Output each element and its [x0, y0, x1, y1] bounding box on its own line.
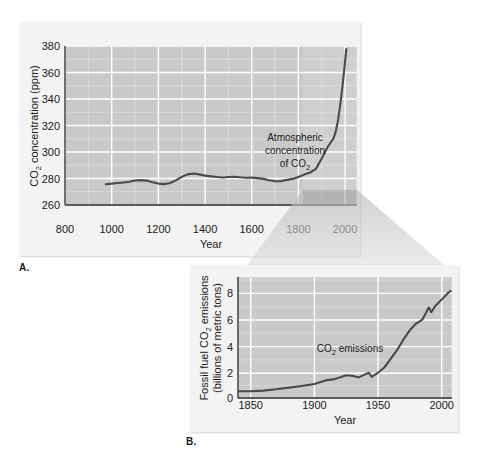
y-ticks-b: 8 6 4 2 0	[227, 287, 233, 404]
y-tick-label: 8	[227, 287, 233, 299]
y-axis-label-b-units: (billions of metric tons)	[211, 283, 223, 393]
y-tick-label: 2	[227, 367, 233, 379]
x-tick-label: 1900	[302, 399, 326, 411]
panel-a-letter: A.	[19, 262, 29, 273]
plot-area-b	[238, 277, 452, 398]
y-axis-label-b-main: Fossil fuel CO	[198, 331, 210, 401]
x-ticks-b: 1850 1900 1950 2000	[238, 399, 453, 411]
y-tick-label: 0	[227, 392, 233, 404]
panel-b-letter: B.	[186, 436, 196, 447]
y-tick-label: 6	[227, 314, 233, 326]
y-axis-label-b-rest: emissions	[198, 275, 210, 327]
figure-canvas: 380 360 340 320 300 280 260 800 1000 120…	[0, 0, 485, 456]
y-axis-label-b-line2: (billions of metric tons)	[211, 283, 223, 393]
annotation-main: CO	[317, 343, 332, 354]
annotation-rest: emissions	[336, 343, 383, 354]
x-tick-label: 2000	[429, 399, 453, 411]
panel-b-chart: 8 6 4 2 0 1850 1900 1950 2000 Year Fossi…	[0, 0, 485, 456]
x-tick-label: 1850	[238, 399, 262, 411]
x-axis-label-b: Year	[334, 414, 357, 426]
x-tick-label: 1950	[366, 399, 390, 411]
y-tick-label: 4	[227, 341, 233, 353]
